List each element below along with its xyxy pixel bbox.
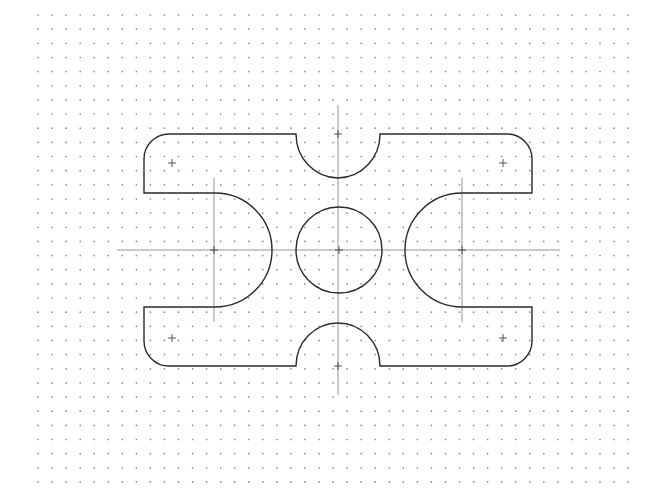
grid-dot: [150, 57, 152, 59]
grid-dot: [276, 156, 278, 158]
grid-dot: [93, 439, 95, 441]
grid-dot: [627, 297, 629, 299]
grid-dot: [304, 297, 306, 299]
grid-dot: [192, 99, 194, 101]
grid-dot: [107, 410, 109, 412]
grid-dot: [37, 396, 39, 398]
grid-dot: [65, 57, 67, 59]
grid-dot: [150, 85, 152, 87]
grid-dot: [360, 481, 362, 483]
grid-dot: [627, 354, 629, 356]
grid-dot: [37, 212, 39, 214]
grid-dot: [318, 283, 320, 285]
grid-dot: [417, 127, 419, 129]
grid-dot: [332, 99, 334, 101]
grid-dot: [515, 71, 517, 73]
grid-dot: [402, 113, 404, 115]
grid-dot: [304, 142, 306, 144]
grid-dot: [346, 170, 348, 172]
grid-dot: [487, 85, 489, 87]
grid-dot: [487, 28, 489, 30]
grid-dot: [627, 184, 629, 186]
grid-dot: [290, 425, 292, 427]
grid-dot: [178, 382, 180, 384]
grid-dot: [360, 269, 362, 271]
grid-dot: [417, 439, 419, 441]
grid-dot: [164, 212, 166, 214]
grid-dot: [346, 297, 348, 299]
grid-dot: [515, 99, 517, 101]
grid-dot: [627, 14, 629, 16]
grid-dot: [557, 85, 559, 87]
grid-dot: [65, 71, 67, 73]
grid-dot: [93, 340, 95, 342]
grid-dot: [374, 85, 376, 87]
grid-dot: [613, 425, 615, 427]
dot-grid: [37, 14, 629, 483]
grid-dot: [79, 142, 81, 144]
grid-dot: [65, 311, 67, 313]
grid-dot: [557, 184, 559, 186]
grid-dot: [37, 283, 39, 285]
grid-dot: [276, 184, 278, 186]
grid-dot: [585, 226, 587, 228]
grid-dot: [276, 340, 278, 342]
grid-dot: [374, 241, 376, 243]
grid-dot: [388, 170, 390, 172]
grid-dot: [417, 42, 419, 44]
grid-dot: [417, 255, 419, 257]
grid-dot: [473, 255, 475, 257]
grid-dot: [557, 311, 559, 313]
grid-dot: [627, 439, 629, 441]
grid-dot: [65, 99, 67, 101]
grid-dot: [360, 241, 362, 243]
grid-dot: [515, 42, 517, 44]
grid-dot: [459, 269, 461, 271]
grid-dot: [473, 170, 475, 172]
grid-dot: [220, 212, 222, 214]
grid-dot: [164, 170, 166, 172]
grid-dot: [459, 127, 461, 129]
grid-dot: [599, 410, 601, 412]
grid-dot: [318, 382, 320, 384]
grid-dot: [346, 368, 348, 370]
grid-dot: [332, 297, 334, 299]
grid-dot: [613, 311, 615, 313]
grid-dot: [529, 28, 531, 30]
grid-dot: [599, 325, 601, 327]
grid-dot: [248, 467, 250, 469]
grid-dot: [262, 439, 264, 441]
grid-dot: [51, 127, 53, 129]
grid-dot: [206, 57, 208, 59]
grid-dot: [121, 368, 123, 370]
grid-dot: [290, 340, 292, 342]
grid-dot: [121, 14, 123, 16]
grid-dot: [529, 198, 531, 200]
grid-dot: [599, 467, 601, 469]
grid-dot: [459, 255, 461, 257]
grid-dot: [150, 212, 152, 214]
grid-dot: [93, 354, 95, 356]
grid-dot: [417, 71, 419, 73]
grid-dot: [529, 127, 531, 129]
grid-dot: [529, 283, 531, 285]
grid-dot: [332, 255, 334, 257]
grid-dot: [37, 14, 39, 16]
grid-dot: [388, 156, 390, 158]
grid-dot: [79, 453, 81, 455]
grid-dot: [571, 28, 573, 30]
grid-dot: [402, 340, 404, 342]
grid-dot: [304, 226, 306, 228]
grid-dot: [192, 368, 194, 370]
grid-dot: [599, 156, 601, 158]
grid-dot: [192, 340, 194, 342]
grid-dot: [318, 127, 320, 129]
grid-dot: [417, 241, 419, 243]
grid-dot: [234, 255, 236, 257]
grid-dot: [501, 14, 503, 16]
grid-dot: [248, 283, 250, 285]
grid-dot: [332, 226, 334, 228]
grid-dot: [543, 142, 545, 144]
grid-dot: [543, 410, 545, 412]
grid-dot: [459, 425, 461, 427]
